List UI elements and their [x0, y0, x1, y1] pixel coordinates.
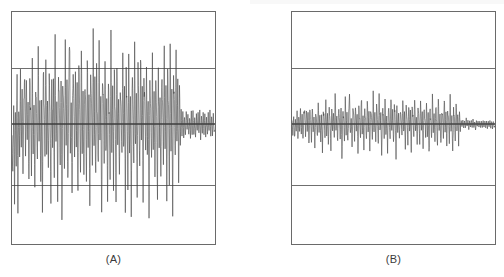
scan-artifact-top	[250, 0, 504, 4]
chart-svg-a	[12, 12, 215, 244]
chart-panel-a	[11, 11, 216, 245]
chart-svg-b	[292, 12, 495, 244]
signal-trace-b	[292, 91, 495, 160]
figure-container: (A) (B)	[0, 0, 504, 277]
chart-panel-b	[291, 11, 496, 245]
gridlines-b	[292, 69, 495, 186]
panel-caption-b: (B)	[291, 253, 496, 265]
panel-caption-a: (A)	[11, 253, 216, 265]
